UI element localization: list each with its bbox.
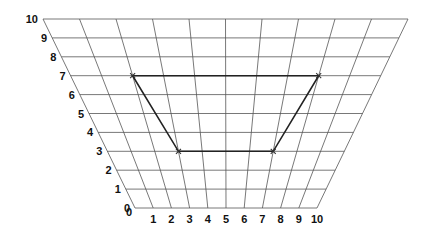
y-axis-label: 3 — [96, 145, 102, 157]
x-axis-label: 10 — [311, 213, 323, 225]
y-axis-label: 2 — [105, 164, 111, 176]
y-axis-label: 9 — [41, 32, 47, 44]
x-axis-label: 3 — [187, 213, 193, 225]
y-axis-label: 5 — [78, 108, 84, 120]
x-axis-label: 6 — [241, 213, 247, 225]
x-axis-label: 2 — [168, 213, 174, 225]
y-axis-label: 1 — [115, 183, 121, 195]
y-axis-label: 4 — [87, 126, 94, 138]
x-axis-label: 0 — [126, 206, 132, 218]
x-axis-labels: 012345678910 — [126, 206, 323, 225]
x-axis-label: 8 — [278, 213, 284, 225]
grid-lines — [43, 19, 408, 208]
y-axis-label: 7 — [59, 70, 65, 82]
grid-line-vertical — [226, 19, 227, 208]
x-axis-label: 1 — [150, 213, 156, 225]
y-axis-label: 8 — [50, 51, 56, 63]
x-axis-label: 9 — [296, 213, 302, 225]
x-axis-label: 4 — [205, 213, 212, 225]
y-axis-label: 10 — [26, 13, 38, 25]
x-axis-label: 7 — [259, 213, 265, 225]
perspective-grid-diagram: 012345678910 012345678910 — [0, 0, 429, 240]
y-axis-label: 6 — [69, 89, 75, 101]
x-axis-label: 5 — [223, 213, 229, 225]
